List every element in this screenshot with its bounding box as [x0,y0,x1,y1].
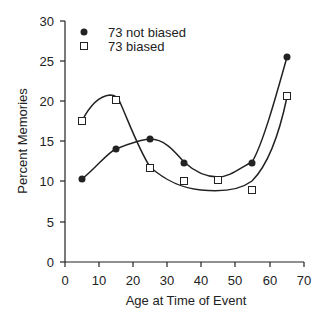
open-square-marker-icon [81,43,88,50]
svg-text:73 not biased: 73 not biased [108,25,186,40]
svg-text:30: 30 [160,273,174,288]
x-axis-label: Age at Time of Event [126,293,247,308]
x-axis [65,262,304,267]
svg-text:60: 60 [263,273,277,288]
filled-circle-marker-icon [81,29,88,36]
svg-text:0: 0 [47,255,54,270]
svg-text:50: 50 [228,273,242,288]
svg-text:10: 10 [40,174,54,189]
y-axis [60,21,65,262]
series-biased-markers [79,93,291,194]
svg-text:25: 25 [40,54,54,69]
svg-text:5: 5 [47,215,54,230]
series-not-biased-markers [79,54,291,183]
svg-text:20: 20 [40,94,54,109]
svg-text:70: 70 [297,273,311,288]
svg-text:15: 15 [40,134,54,149]
x-tick-labels: 0 10 20 30 40 50 60 70 [61,273,311,288]
series-biased-curve [82,95,287,191]
svg-text:0: 0 [61,273,68,288]
y-tick-labels: 30 25 20 15 10 5 0 [40,14,54,270]
svg-text:40: 40 [194,273,208,288]
svg-text:73 biased: 73 biased [108,39,164,54]
legend: 73 not biased 73 biased [81,25,187,54]
svg-text:20: 20 [126,273,140,288]
chart: 30 25 20 15 10 5 0 0 10 20 30 40 50 60 7… [0,0,327,325]
y-axis-label: Percent Memories [15,88,30,194]
svg-text:30: 30 [40,14,54,29]
svg-text:10: 10 [92,273,106,288]
